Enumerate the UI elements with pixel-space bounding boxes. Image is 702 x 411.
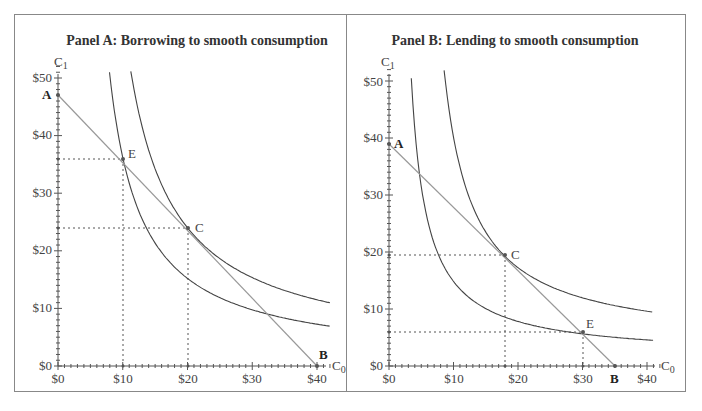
point-label-a: A bbox=[394, 136, 404, 151]
x-axis-label: C0 bbox=[661, 358, 675, 375]
x-tick-30: $30 bbox=[242, 371, 262, 386]
indifference-curve-e bbox=[110, 72, 330, 326]
point-label-b: B bbox=[610, 371, 619, 386]
budget-line bbox=[389, 144, 615, 366]
y-tick-50: $50 bbox=[33, 70, 53, 85]
x-tick-0: $0 bbox=[52, 371, 65, 386]
y-axis-label: C1 bbox=[54, 54, 68, 71]
y-tick-10: $10 bbox=[364, 301, 384, 316]
x-tick-40: $40 bbox=[637, 371, 657, 386]
x-tick-30: $30 bbox=[573, 371, 593, 386]
chart-canvas: Panel A: Borrowing to smooth consumption… bbox=[0, 0, 702, 411]
y-tick-10: $10 bbox=[33, 300, 53, 315]
panel-a-title: Panel A: Borrowing to smooth consumption bbox=[66, 33, 328, 48]
y-tick-40: $40 bbox=[364, 130, 384, 145]
y-tick-40: $40 bbox=[33, 127, 53, 142]
y-tick-30: $30 bbox=[33, 185, 53, 200]
panel-a-chart: Panel A: Borrowing to smooth consumption… bbox=[33, 33, 346, 386]
guide-lines bbox=[58, 159, 188, 366]
x-tick-20: $20 bbox=[178, 371, 198, 386]
x-tick-10: $10 bbox=[113, 371, 133, 386]
panel-b-title: Panel B: Lending to smooth consumption bbox=[392, 33, 639, 48]
indifference-curve-e bbox=[411, 78, 653, 340]
y-tick-0: $0 bbox=[39, 358, 52, 373]
y-tick-20: $20 bbox=[364, 244, 384, 259]
y-tick-20: $20 bbox=[33, 242, 53, 257]
x-tick-40: $40 bbox=[307, 371, 327, 386]
point-label-e: E bbox=[128, 146, 136, 161]
guide-lines bbox=[389, 255, 583, 366]
point-label-c: C bbox=[195, 220, 204, 235]
x-axis-label: C0 bbox=[332, 358, 346, 375]
x-tick-10: $10 bbox=[444, 371, 464, 386]
x-tick-20: $20 bbox=[508, 371, 528, 386]
indifference-curve-c bbox=[131, 71, 330, 302]
point-label-e: E bbox=[586, 316, 594, 331]
indifference-curve-c bbox=[444, 70, 652, 312]
point-label-b: B bbox=[319, 347, 328, 362]
point-label-a: A bbox=[42, 87, 52, 102]
y-tick-30: $30 bbox=[364, 187, 384, 202]
y-tick-0: $0 bbox=[370, 358, 383, 373]
point-label-c: C bbox=[511, 247, 520, 262]
budget-line bbox=[58, 95, 317, 366]
x-tick-0: $0 bbox=[383, 371, 396, 386]
panel-b-chart: Panel B: Lending to smooth consumption C… bbox=[364, 33, 675, 386]
y-tick-50: $50 bbox=[364, 74, 384, 89]
y-axis-label: C1 bbox=[381, 54, 395, 71]
